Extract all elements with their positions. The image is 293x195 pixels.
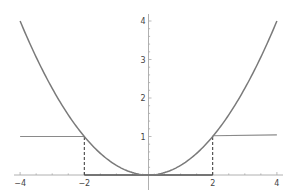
- axes: −4−2241234: [14, 14, 283, 190]
- y-tick-label: 4: [140, 17, 145, 26]
- step-line-right: [213, 135, 277, 136]
- y-tick-label: 1: [140, 133, 145, 142]
- plot-area: −4−2241234: [0, 0, 293, 195]
- y-tick-label: 2: [140, 94, 145, 103]
- x-tick-label: −4: [14, 179, 26, 188]
- x-tick-label: −2: [78, 179, 90, 188]
- y-tick-label: 3: [140, 56, 145, 65]
- x-tick-label: 4: [274, 179, 279, 188]
- x-tick-label: 2: [210, 179, 215, 188]
